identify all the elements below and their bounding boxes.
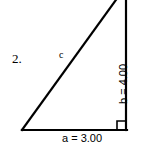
base-length-label: a = 3.00 <box>62 133 102 144</box>
right-triangle-figure: 2. c a = 3.00 b = 4.00 <box>0 0 146 152</box>
triangle-hypotenuse-c <box>22 0 126 130</box>
right-angle-icon <box>117 121 126 130</box>
vertical-length-label: b = 4.00 <box>118 0 129 42</box>
item-number: 2. <box>12 52 22 65</box>
vertical-length-label-text: b = 4.00 <box>118 42 129 104</box>
hypotenuse-label: c <box>59 50 63 60</box>
